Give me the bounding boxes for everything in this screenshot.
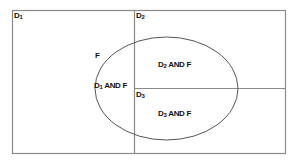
set-f-label: F: [95, 52, 100, 60]
d1-and-f-label: D1 AND F: [94, 82, 127, 90]
region-d1-label: D1: [14, 12, 23, 20]
region-d3-label: D3: [136, 91, 145, 99]
d2-and-f-label: D2 AND F: [158, 61, 191, 69]
region-d2-label: D2: [136, 12, 145, 20]
diagram-svg: [0, 0, 294, 160]
diagram-canvas: D1 D2 D3 F D2 AND F D1 AND F D3 AND F: [0, 0, 294, 160]
d3-and-f-label: D3 AND F: [158, 110, 191, 118]
outer-rectangle: [13, 11, 286, 154]
